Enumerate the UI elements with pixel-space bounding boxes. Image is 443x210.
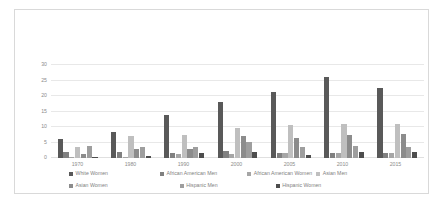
bar xyxy=(341,124,346,158)
chart-legend: White WomenAfrican American MenAfrican A… xyxy=(51,168,422,194)
bar xyxy=(193,147,198,158)
bar xyxy=(395,124,400,158)
legend-row-2: Asian WomenHispanic MenHispanic Women xyxy=(51,180,422,192)
y-axis-tick-label: 10 xyxy=(29,124,47,129)
bar-group xyxy=(317,10,370,158)
legend-item[interactable]: Hispanic Men xyxy=(180,183,218,188)
legend-swatch-icon xyxy=(160,172,164,176)
legend-label: Hispanic Men xyxy=(186,183,217,188)
bar xyxy=(246,142,251,158)
bar xyxy=(182,135,187,158)
bar xyxy=(187,149,192,158)
bar-group xyxy=(211,10,264,158)
bar-group xyxy=(158,10,211,158)
bar xyxy=(288,125,293,158)
y-axis: 051015202530 xyxy=(25,10,47,158)
bars-layer xyxy=(51,10,424,158)
bar xyxy=(347,135,352,158)
bar-group xyxy=(264,10,317,158)
legend-swatch-icon xyxy=(69,172,73,176)
bar xyxy=(87,146,92,158)
plot-area: 051015202530 xyxy=(15,10,430,158)
bar xyxy=(294,138,299,158)
legend-row-1: White WomenAfrican American MenAfrican A… xyxy=(51,168,422,180)
legend-label: African American Women xyxy=(254,171,312,176)
legend-label: White Women xyxy=(76,171,108,176)
bar xyxy=(324,77,329,158)
bar xyxy=(134,149,139,158)
legend-item[interactable]: Hispanic Women xyxy=(276,183,322,188)
bar xyxy=(111,132,116,158)
legend-label: Asian Men xyxy=(323,171,348,176)
bar xyxy=(140,147,145,158)
bar-group xyxy=(51,10,104,158)
legend-swatch-icon xyxy=(247,172,251,176)
bar xyxy=(377,88,382,158)
bar xyxy=(300,147,305,158)
bar xyxy=(223,151,228,158)
bar xyxy=(218,102,223,158)
bar xyxy=(75,147,80,158)
legend-label: African American Men xyxy=(166,171,217,176)
y-axis-tick-label: 15 xyxy=(29,109,47,114)
bar xyxy=(235,128,240,158)
bar xyxy=(164,115,169,158)
bar xyxy=(406,147,411,158)
y-axis-tick-label: 0 xyxy=(29,155,47,160)
y-axis-tick-label: 5 xyxy=(29,140,47,145)
y-axis-tick-label: 20 xyxy=(29,93,47,98)
legend-swatch-icon xyxy=(276,184,280,188)
bar xyxy=(353,146,358,158)
legend-item[interactable]: African American Men xyxy=(160,171,217,176)
legend-item[interactable]: Asian Women xyxy=(69,183,108,188)
legend-label: Hispanic Women xyxy=(282,183,321,188)
bar xyxy=(241,136,246,158)
bar-group xyxy=(104,10,157,158)
legend-swatch-icon xyxy=(180,184,184,188)
legend-label: Asian Women xyxy=(76,183,108,188)
bar xyxy=(128,136,133,158)
bar xyxy=(401,134,406,158)
bar xyxy=(58,139,63,158)
legend-item[interactable]: Asian Men xyxy=(316,171,347,176)
legend-item[interactable]: White Women xyxy=(69,171,108,176)
bar-group xyxy=(371,10,424,158)
legend-swatch-icon xyxy=(69,184,73,188)
y-axis-tick-label: 25 xyxy=(29,78,47,83)
legend-swatch-icon xyxy=(316,172,320,176)
bar xyxy=(271,92,276,158)
legend-item[interactable]: African American Women xyxy=(247,171,312,176)
y-axis-tick-label: 30 xyxy=(29,62,47,67)
chart-container: 051015202530 197019801990200020052010201… xyxy=(14,9,429,194)
